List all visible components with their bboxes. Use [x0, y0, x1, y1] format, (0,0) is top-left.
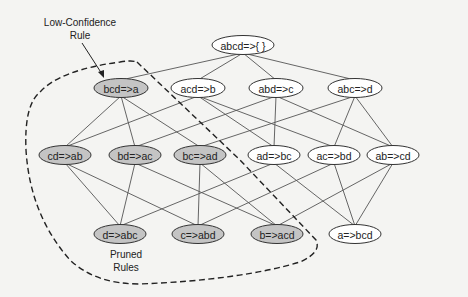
edge-acd-ac	[198, 96, 334, 147]
node-ac: ac=>bd	[308, 146, 360, 165]
node-label: abcd=>{ }	[221, 40, 266, 52]
pruned-rules-annotation: Pruned Rules	[110, 249, 142, 273]
node-abc: abc=>d	[328, 79, 382, 98]
node-label: d=>abc	[102, 229, 137, 241]
pruned-label-line2: Rules	[113, 262, 139, 273]
edge-cd-c	[65, 163, 198, 226]
node-acd: acd=>b	[171, 79, 225, 98]
node-c: c=>abd	[172, 225, 224, 244]
rule-lattice-diagram: abcd=>{ }bcd=>aacd=>babd=>cabc=>dcd=>abb…	[0, 0, 468, 297]
low-confidence-annotation: Low-Confidence Rule	[44, 17, 117, 78]
low-confidence-label-line2: Rule	[70, 30, 91, 41]
edge-bc-c	[198, 163, 200, 226]
node-bc: bc=>ad	[174, 146, 226, 165]
node-bd: bd=>ac	[109, 146, 161, 165]
node-label: ac=>bd	[316, 150, 351, 162]
node-label: bd=>ac	[117, 150, 152, 162]
edge-cd-d	[65, 163, 120, 226]
edge-acd-cd	[65, 96, 198, 147]
node-ad: ad=>bc	[248, 146, 300, 165]
node-label: acd=>b	[180, 83, 215, 95]
edge-abd-ad	[274, 96, 276, 147]
node-cd: cd=>ab	[39, 146, 91, 165]
edge-abc-ac	[334, 96, 355, 147]
edge-ac-a	[334, 163, 355, 226]
edge-abcd-bcd	[121, 53, 243, 80]
node-label: cd=>ab	[47, 150, 82, 162]
edge-bcd-cd	[65, 96, 121, 147]
edge-abd-bd	[135, 96, 276, 147]
edge-abcd-acd	[198, 53, 243, 80]
pruned-label-line1: Pruned	[110, 249, 142, 260]
node-a: a=>bcd	[329, 225, 381, 244]
low-confidence-label-line1: Low-Confidence	[44, 17, 117, 28]
edge-abc-bc	[200, 96, 355, 147]
edge-ad-d	[120, 163, 274, 226]
edge-abd-ab	[276, 96, 393, 147]
node-label: bc=>ad	[182, 150, 217, 162]
edge-abc-ab	[355, 96, 393, 147]
edge-acd-ad	[198, 96, 274, 147]
annotation-arrowhead-icon	[98, 70, 104, 78]
node-label: ad=>bc	[256, 150, 291, 162]
edge-ab-a	[355, 163, 393, 226]
node-abd: abd=>c	[249, 79, 303, 98]
node-label: bcd=>a	[103, 83, 138, 95]
edge-bd-d	[120, 163, 135, 226]
edge-bd-b	[135, 163, 277, 226]
node-label: b=>acd	[259, 229, 294, 241]
node-label: abd=>c	[258, 83, 293, 95]
node-d: d=>abc	[94, 225, 146, 244]
node-label: a=>bcd	[337, 229, 372, 241]
node-bcd: bcd=>a	[94, 79, 148, 98]
node-ab: ab=>cd	[367, 146, 419, 165]
node-label: c=>abd	[180, 229, 215, 241]
node-b: b=>acd	[251, 225, 303, 244]
node-label: ab=>cd	[375, 150, 410, 162]
node-abcd: abcd=>{ }	[212, 36, 274, 55]
node-label: abc=>d	[337, 83, 372, 95]
